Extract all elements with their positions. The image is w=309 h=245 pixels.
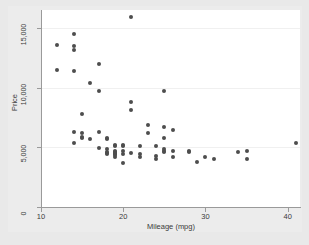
data-point	[97, 146, 101, 150]
y-tick-label-text: 15,000	[20, 24, 27, 45]
gridline-y-15000	[41, 28, 300, 29]
data-point	[162, 125, 166, 129]
data-point	[80, 112, 84, 116]
x-tick-label-20: 20	[108, 212, 138, 221]
data-point	[105, 152, 109, 156]
data-point	[146, 131, 150, 135]
gridline-y-5000	[41, 147, 300, 148]
data-point	[138, 144, 142, 148]
y-tick-label-text: 10,000	[20, 83, 27, 104]
data-point	[187, 150, 191, 154]
x-axis-title: Mileage (mpg)	[41, 222, 301, 231]
y-tick-mark-15000	[37, 28, 41, 29]
data-point	[294, 141, 298, 145]
data-point	[129, 108, 133, 112]
data-point	[129, 151, 133, 155]
y-tick-mark-10000	[37, 88, 41, 89]
data-point	[97, 130, 101, 134]
y-tick-label-15000: 15,000	[12, 23, 36, 33]
data-point	[72, 32, 76, 36]
data-point	[195, 160, 199, 164]
data-point	[236, 150, 240, 154]
data-point	[129, 15, 133, 19]
scatter-plot-figure: 05,00010,00015,000 10203040 Price Mileag…	[0, 0, 309, 245]
plot-data-area	[41, 10, 300, 207]
data-point	[72, 130, 76, 134]
data-point	[171, 149, 175, 153]
data-point	[88, 81, 92, 85]
y-tick-mark-5000	[37, 147, 41, 148]
y-axis-line	[41, 10, 42, 208]
data-point	[105, 137, 109, 141]
data-point	[129, 100, 133, 104]
data-point	[113, 155, 117, 159]
data-point	[72, 69, 76, 73]
data-point	[72, 141, 76, 145]
data-point	[162, 89, 166, 93]
data-point	[55, 68, 59, 72]
data-point	[97, 89, 101, 93]
y-tick-label-0: 0	[12, 202, 36, 212]
data-point	[162, 150, 166, 154]
data-point	[121, 161, 125, 165]
y-tick-label-text: 5,000	[21, 145, 28, 163]
x-tick-label-30: 30	[190, 212, 220, 221]
data-point	[245, 157, 249, 161]
y-axis-title-text: Price	[10, 94, 19, 111]
data-point	[212, 157, 216, 161]
data-point	[162, 136, 166, 140]
data-point	[171, 155, 175, 159]
data-point	[203, 155, 207, 159]
x-tick-label-10: 10	[26, 212, 56, 221]
x-tick-label-40: 40	[273, 212, 303, 221]
x-axis-line	[41, 207, 301, 208]
data-point	[154, 157, 158, 161]
data-point	[171, 128, 175, 132]
data-point	[138, 155, 142, 159]
data-point	[121, 152, 125, 156]
y-tick-label-5000: 5,000	[12, 142, 36, 152]
data-point	[88, 137, 92, 141]
data-point	[245, 149, 249, 153]
data-point	[72, 48, 76, 52]
data-point	[146, 123, 150, 127]
y-tick-label-10000: 10,000	[12, 83, 36, 93]
data-point	[80, 136, 84, 140]
y-axis-title: Price	[6, 98, 16, 107]
data-point	[55, 43, 59, 47]
data-point	[97, 62, 101, 66]
gridline-y-10000	[41, 88, 300, 89]
